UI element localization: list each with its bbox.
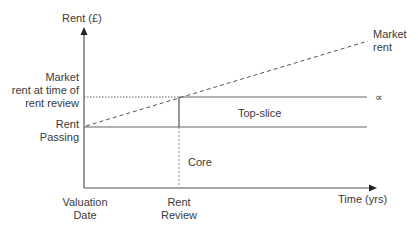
market-rent-line [86,41,368,126]
label-line: rent review [12,97,79,110]
label-line: Date [58,209,112,222]
label-line: rent [373,41,407,54]
market-rent-label: Market rent [373,28,407,54]
label-line: Valuation [58,196,112,209]
y-axis-label: Rent (£) [62,12,102,25]
label-line: Rent [40,118,79,131]
label-line: Rent [156,196,202,209]
label-line: Market [12,71,79,84]
label-line: Review [156,209,202,222]
valuation-date-label: Valuation Date [58,196,112,222]
x-axis-arrow-icon [369,185,377,192]
x-axis-label: Time (yrs) [338,193,387,206]
label-line: Market [373,28,407,41]
y-axis-arrow-icon [81,27,88,35]
core-label: Core [188,156,212,169]
label-line: Passing [40,131,79,144]
rent-review-label: Rent Review [156,196,202,222]
infinity-symbol-label: ∝ [375,91,383,104]
market-rent-at-review-label: Market rent at time of rent review [12,71,79,110]
label-line: rent at time of [12,84,79,97]
rent-passing-label: Rent Passing [40,118,79,144]
top-slice-label: Top-slice [238,107,281,120]
